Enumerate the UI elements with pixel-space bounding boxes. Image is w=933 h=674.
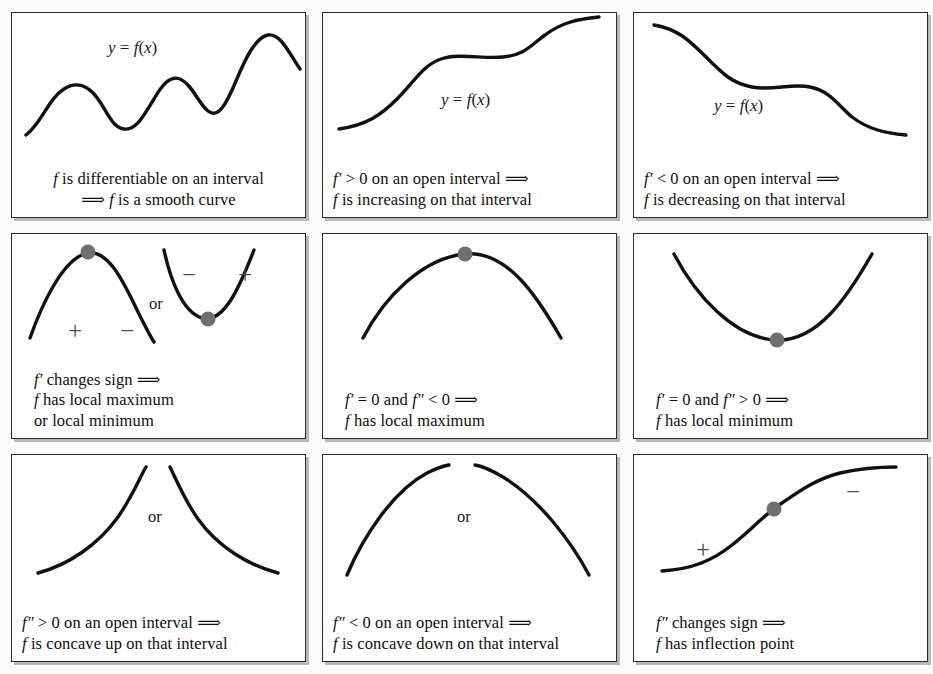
panel-differentiable-smooth: y = f(x) f is differentiable on an inter…: [11, 12, 306, 218]
inflection-marker: [767, 502, 782, 517]
increasing-curve: [323, 13, 617, 143]
caption-line-2: f is decreasing on that interval: [644, 190, 923, 211]
panel-inflection-point: + − f″ changes sign ⟹ f has inflection p…: [633, 454, 928, 662]
panel-caption: f″ changes sign ⟹ f has inflection point: [634, 613, 927, 655]
panel-caption: f′ changes sign ⟹ f has local maximum or…: [12, 370, 305, 432]
or-label: or: [148, 509, 162, 526]
sign-plus-right: +: [238, 262, 252, 287]
caption-line-2: f has local maximum: [34, 390, 301, 411]
panel-caption: f′ > 0 on an open interval ⟹ f is increa…: [323, 169, 616, 211]
panel-first-derivative-sign-change: + − − + or f′ changes sign ⟹ f has local…: [11, 233, 306, 439]
maximum-marker: [458, 247, 473, 262]
sign-minus: −: [846, 479, 860, 504]
caption-line-1: f′ = 0 and f″ < 0 ⟹: [345, 390, 612, 411]
caption-line-1: f″ changes sign ⟹: [656, 613, 923, 634]
caption-line-1: f′ changes sign ⟹: [34, 370, 301, 391]
sign-minus-right: −: [182, 262, 196, 287]
or-label: or: [457, 509, 471, 526]
derivative-summary-figure: y = f(x) f is differentiable on an inter…: [0, 0, 933, 674]
panel-caption: f″ < 0 on an open interval ⟹ f is concav…: [323, 613, 616, 655]
caption-line-2: ⟹ f is a smooth curve: [16, 190, 301, 211]
minimum-marker: [770, 333, 785, 348]
caption-line-1: f″ < 0 on an open interval ⟹: [333, 613, 612, 634]
y-label: y = f(x): [108, 39, 157, 56]
wavy-differentiable-curve: [12, 13, 306, 143]
caption-line-1: f′ < 0 on an open interval ⟹: [644, 169, 923, 190]
panel-caption: f′ = 0 and f″ > 0 ⟹ f has local minimum: [634, 390, 927, 432]
caption-line-2: f is concave up on that interval: [22, 634, 301, 655]
panel-caption: f′ < 0 on an open interval ⟹ f is decrea…: [634, 169, 927, 211]
caption-line-2: f has inflection point: [656, 634, 923, 655]
minimum-marker: [201, 312, 216, 327]
caption-line-2: f has local minimum: [656, 411, 923, 432]
panel-caption: f is differentiable on an interval ⟹ f i…: [12, 169, 305, 211]
decreasing-curve: [634, 13, 928, 143]
sign-minus-left: −: [120, 318, 134, 343]
sign-plus-left: +: [68, 318, 82, 343]
panel-concave-up: or f″ > 0 on an open interval ⟹ f is con…: [11, 454, 306, 662]
caption-line-2: f is concave down on that interval: [333, 634, 612, 655]
maximum-marker: [81, 245, 96, 260]
concave-up-valley-curve: [634, 234, 928, 364]
caption-line-1: f is differentiable on an interval: [16, 169, 301, 190]
sign-plus: +: [696, 537, 710, 562]
panel-increasing: y = f(x) f′ > 0 on an open interval ⟹ f …: [322, 12, 617, 218]
y-label: y = f(x): [714, 97, 763, 114]
caption-line-2: f has local maximum: [345, 411, 612, 432]
concave-down-peak-curve: [323, 234, 617, 364]
panel-caption: f′ = 0 and f″ < 0 ⟹ f has local maximum: [323, 390, 616, 432]
sigmoid-inflection-curve: [634, 455, 928, 585]
caption-line-1: f″ > 0 on an open interval ⟹: [22, 613, 301, 634]
panel-concave-down: or f″ < 0 on an open interval ⟹ f is con…: [322, 454, 617, 662]
caption-line-3: or local minimum: [34, 411, 301, 432]
caption-line-2: f is increasing on that interval: [333, 190, 612, 211]
y-label: y = f(x): [441, 91, 490, 108]
panel-decreasing: y = f(x) f′ < 0 on an open interval ⟹ f …: [633, 12, 928, 218]
or-label: or: [149, 296, 163, 313]
panel-caption: f″ > 0 on an open interval ⟹ f is concav…: [12, 613, 305, 655]
panel-local-minimum: f′ = 0 and f″ > 0 ⟹ f has local minimum: [633, 233, 928, 439]
caption-line-1: f′ > 0 on an open interval ⟹: [333, 169, 612, 190]
panel-local-maximum: f′ = 0 and f″ < 0 ⟹ f has local maximum: [322, 233, 617, 439]
caption-line-1: f′ = 0 and f″ > 0 ⟹: [656, 390, 923, 411]
